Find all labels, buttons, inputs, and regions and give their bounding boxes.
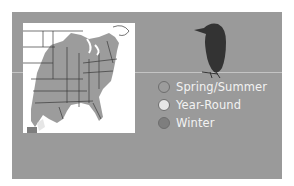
bird-silhouette (192, 22, 242, 80)
range-map (23, 23, 135, 133)
legend-label: Year-Round (176, 98, 241, 112)
bird-silhouette-icon (192, 22, 242, 80)
legend-label: Spring/Summer (176, 80, 267, 94)
winter-swatch-icon (158, 117, 170, 129)
us-map-icon (23, 23, 135, 133)
legend-item-winter: Winter (158, 114, 267, 132)
spring-summer-swatch-icon (158, 81, 170, 93)
year-round-swatch-icon (158, 99, 170, 111)
legend-label: Winter (176, 116, 215, 130)
range-map-panel: Spring/Summer Year-Round Winter (12, 12, 282, 179)
legend-item-year-round: Year-Round (158, 96, 267, 114)
legend-item-spring-summer: Spring/Summer (158, 78, 267, 96)
legend: Spring/Summer Year-Round Winter (158, 78, 267, 132)
